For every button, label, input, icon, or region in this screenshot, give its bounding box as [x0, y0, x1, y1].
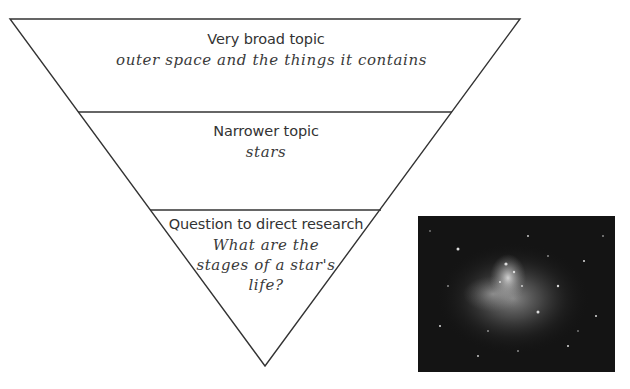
level-3-example-line-2: stages of a star's	[176, 255, 356, 275]
level-3-example-line-1: What are the	[176, 235, 356, 255]
nebula-photo	[418, 216, 615, 372]
level-2-heading: Narrower topic	[166, 123, 366, 139]
level-1-example: outer space and the things it contains	[116, 50, 416, 70]
nebula-image-icon	[418, 216, 615, 372]
level-3-example-line-3: life?	[176, 275, 356, 295]
level-2-example: stars	[166, 142, 366, 162]
level-1-heading: Very broad topic	[166, 31, 366, 47]
level-3-heading: Question to direct research	[156, 216, 376, 232]
